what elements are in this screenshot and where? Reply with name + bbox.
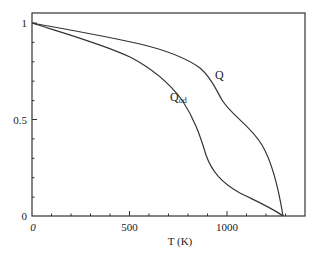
annotation-qod-main: Q [170, 90, 179, 104]
series-q-line [32, 23, 283, 216]
plot-frame [32, 13, 305, 216]
y-tick-label-1: 1 [22, 17, 28, 29]
x-axis-label: T (K) [168, 235, 193, 248]
series-qod-line [32, 23, 283, 216]
x-tick-label-1000: 1000 [216, 221, 239, 233]
x-ticks [52, 211, 286, 216]
annotation-qod: Qod [170, 90, 187, 105]
y-tick-label-0.5: 0.5 [13, 114, 27, 126]
x-tick-label-500: 500 [121, 221, 138, 233]
annotation-q: Q [215, 68, 224, 82]
x-tick-label-0: 0 [30, 221, 36, 233]
y-ticks [32, 23, 37, 197]
chart: 1 0.5 0 0 500 1000 T (K) Q Qod [0, 0, 322, 255]
annotation-qod-sub: od [179, 96, 187, 105]
y-tick-label-0: 0 [22, 210, 28, 222]
